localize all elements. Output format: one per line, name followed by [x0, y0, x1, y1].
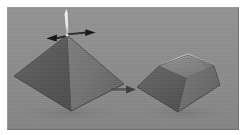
render-viewport: [7, 7, 239, 130]
figure-container: Pyramid to truncated pyramid transformat…: [0, 0, 244, 135]
scene-canvas: [7, 7, 239, 130]
handle-pivot-node[interactable]: [65, 33, 68, 36]
transform-arrow-shaft: [111, 88, 128, 90]
